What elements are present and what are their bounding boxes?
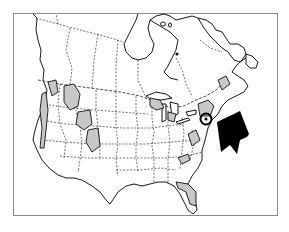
state-border bbox=[136, 96, 138, 172]
north-america-map bbox=[0, 0, 289, 232]
state-border bbox=[96, 90, 100, 160]
continent-outline bbox=[33, 14, 248, 214]
state-border bbox=[42, 140, 196, 144]
province-border bbox=[92, 34, 98, 88]
lake-ontario bbox=[186, 110, 196, 116]
range-michigan bbox=[168, 112, 176, 122]
arctic-island bbox=[169, 23, 172, 27]
province-border bbox=[66, 28, 72, 86]
province-border bbox=[200, 40, 222, 52]
province-border bbox=[116, 40, 118, 92]
range-maritimes bbox=[218, 76, 230, 90]
province-border bbox=[138, 60, 146, 98]
pointer-arrow-icon bbox=[217, 111, 249, 154]
arctic-island bbox=[161, 22, 166, 26]
hudson-bay bbox=[150, 20, 178, 80]
range-colorado bbox=[86, 128, 100, 152]
lake-erie bbox=[176, 118, 190, 124]
province-border bbox=[176, 58, 192, 96]
province-border bbox=[56, 14, 58, 24]
state-border bbox=[116, 92, 118, 176]
range-pacific-coast bbox=[40, 92, 48, 148]
newfoundland bbox=[246, 54, 258, 68]
province-border bbox=[36, 18, 124, 42]
location-marker-dot bbox=[205, 118, 208, 121]
labrador-coast bbox=[198, 18, 246, 62]
range-southern-appalachians bbox=[178, 154, 190, 164]
state-border bbox=[152, 100, 154, 182]
range-florida-gulf bbox=[176, 182, 196, 206]
range-idaho-montana bbox=[64, 84, 80, 110]
range-bc-interior bbox=[48, 80, 58, 96]
range-wyoming bbox=[76, 110, 92, 130]
range-appalachians bbox=[188, 130, 200, 146]
lake-dot bbox=[175, 52, 178, 55]
state-border bbox=[116, 168, 176, 170]
state-border bbox=[168, 110, 170, 184]
